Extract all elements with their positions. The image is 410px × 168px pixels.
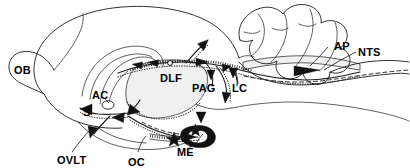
label-s: S <box>83 106 91 118</box>
label-nts: NTS <box>358 46 381 58</box>
label-ob: OB <box>14 64 31 76</box>
spinal-cord-ventral <box>232 102 409 121</box>
label-pag: PAG <box>192 82 216 94</box>
cerebellar-folium-5 <box>244 31 260 33</box>
leader-ovlt <box>72 130 90 152</box>
arrowhead-ap <box>294 66 320 76</box>
pons-ventral-curve <box>196 104 232 109</box>
brain-diagram-figure: OB S AC OVLT OC MÉ DLF PAG LC AP NTS <box>0 0 410 168</box>
label-ap: AP <box>334 40 350 52</box>
arrowhead-preoptic-1 <box>112 111 125 122</box>
cerebellar-folium-1 <box>251 14 264 56</box>
brain-diagram-svg: OB S AC OVLT OC MÉ DLF PAG LC AP NTS <box>0 0 410 168</box>
label-ovlt: OVLT <box>57 154 86 166</box>
arrowhead-pituitary-down <box>196 112 206 123</box>
label-oc: OC <box>128 156 145 168</box>
arrowhead-ovlt <box>88 126 98 138</box>
olfactory-bulb-stalk <box>54 14 83 70</box>
label-ac: AC <box>92 89 108 101</box>
label-dlf: DLF <box>160 72 182 84</box>
cerebellar-folium-6 <box>272 28 288 30</box>
arrowhead-dlf-caudal <box>196 58 208 66</box>
arrowhead-pag-descend <box>222 92 231 103</box>
label-me: MÉ <box>177 146 194 158</box>
arrowhead-ascending-cortex <box>198 37 212 51</box>
optic-chiasm-curve <box>96 126 146 143</box>
arrowhead-pag-down <box>207 70 215 80</box>
dlf-node <box>168 61 173 66</box>
cerebellar-folium-7 <box>299 24 316 26</box>
label-lc: LC <box>232 82 247 94</box>
cerebellar-folium-2 <box>271 13 287 62</box>
